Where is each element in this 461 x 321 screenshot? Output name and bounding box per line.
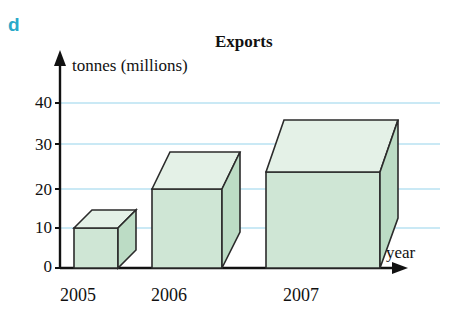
bar-2007 [266, 120, 398, 268]
chart-figure: d Exports tonnes (millions) year 0 10 20… [0, 0, 461, 321]
bar-2005 [74, 210, 136, 268]
bar-2006 [152, 152, 240, 268]
chart-canvas [0, 0, 461, 321]
